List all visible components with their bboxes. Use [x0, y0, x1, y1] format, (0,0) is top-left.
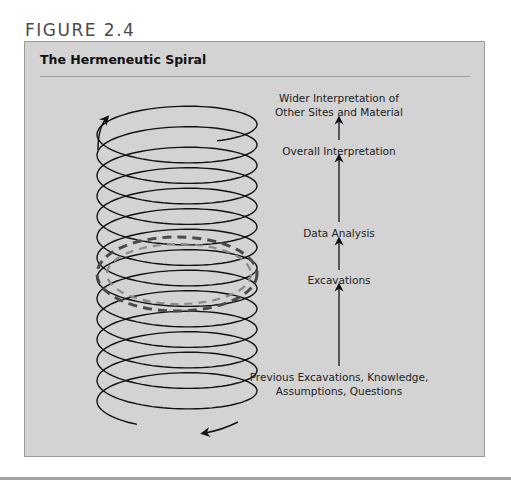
step-wider-interpretation: Wider Interpretation of Other Sites and …	[275, 91, 403, 119]
step-line: Excavations	[307, 273, 370, 287]
step-excavations: Excavations	[307, 273, 370, 287]
step-overall-interpretation: Overall Interpretation	[282, 144, 395, 158]
step-line: Previous Excavations, Knowledge,	[250, 370, 429, 384]
spiral-coil-path	[97, 106, 257, 424]
spiral-bottom-arrow-icon	[205, 422, 238, 433]
spiral	[97, 106, 257, 433]
step-line: Overall Interpretation	[282, 144, 395, 158]
step-line: Wider Interpretation of	[275, 91, 403, 105]
hermeneutic-spiral-diagram	[0, 0, 511, 480]
step-line: Other Sites and Material	[275, 105, 403, 119]
step-line: Data Analysis	[303, 226, 375, 240]
step-data-analysis: Data Analysis	[303, 226, 375, 240]
step-line: Assumptions, Questions	[250, 384, 429, 398]
step-previous-knowledge: Previous Excavations, Knowledge, Assumpt…	[250, 370, 429, 398]
